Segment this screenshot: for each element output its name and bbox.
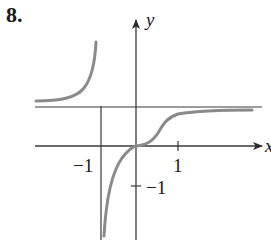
function-graph: y x −1 1 −1 xyxy=(0,0,271,242)
x-tick-label-neg1: −1 xyxy=(73,155,93,176)
y-tick-label-neg1: −1 xyxy=(146,177,166,198)
x-axis-label: x xyxy=(264,135,271,156)
curve-left-branch xyxy=(36,42,96,101)
y-axis-label: y xyxy=(144,9,155,30)
x-tick-label-1: 1 xyxy=(173,155,183,176)
